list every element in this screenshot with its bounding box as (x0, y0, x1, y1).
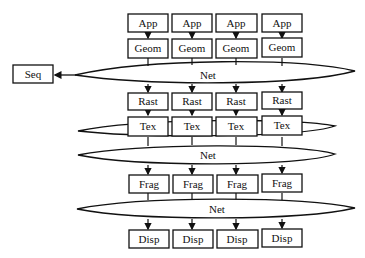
node-rast-2: Rast (172, 93, 212, 110)
svg-text:Frag: Frag (227, 178, 248, 190)
node-disp-1: Disp (129, 230, 169, 248)
svg-text:Disp: Disp (227, 233, 248, 245)
node-disp-2: Disp (173, 230, 213, 248)
stage-row-geom: Geom Geom Geom Geom (128, 38, 302, 58)
svg-text:Geom: Geom (223, 42, 250, 54)
svg-text:Geom: Geom (269, 41, 296, 53)
node-tex-3: Tex (216, 117, 257, 136)
svg-text:Tex: Tex (228, 120, 245, 132)
node-geom-3: Geom (216, 39, 257, 58)
network-label-3: Net (200, 149, 216, 161)
node-frag-2: Frag (173, 175, 213, 193)
svg-text:Frag: Frag (139, 178, 160, 190)
svg-text:Rast: Rast (272, 94, 292, 106)
svg-text:App: App (139, 17, 158, 29)
svg-text:App: App (227, 17, 246, 29)
svg-text:Frag: Frag (272, 177, 293, 189)
network-ring-3: Net (78, 146, 335, 164)
svg-text:Tex: Tex (274, 119, 291, 131)
node-frag-3: Frag (217, 175, 258, 193)
node-frag-4: Frag (262, 174, 302, 192)
node-tex-1: Tex (128, 117, 168, 136)
network-label-4: Net (209, 203, 225, 215)
stage-row-tex: Tex Tex Tex Tex (128, 116, 302, 136)
stage-row-frag: Frag Frag Frag Frag (129, 174, 302, 193)
svg-text:Rast: Rast (138, 95, 158, 107)
network-ring-4: Net (77, 199, 355, 218)
node-disp-3: Disp (217, 230, 258, 248)
node-app-2: App (172, 14, 212, 32)
svg-text:Disp: Disp (272, 232, 293, 244)
node-app-1: App (128, 14, 168, 32)
node-rast-1: Rast (128, 93, 168, 110)
node-geom-2: Geom (172, 39, 212, 58)
stage-row-app: App App App App (128, 14, 302, 32)
svg-text:Geom: Geom (179, 42, 206, 54)
svg-text:Geom: Geom (135, 42, 162, 54)
node-disp-4: Disp (262, 229, 302, 247)
svg-text:Rast: Rast (226, 95, 246, 107)
node-geom-4: Geom (262, 38, 302, 57)
node-tex-2: Tex (172, 117, 212, 136)
svg-text:Rast: Rast (182, 95, 202, 107)
node-frag-1: Frag (129, 175, 169, 193)
svg-text:App: App (273, 17, 292, 29)
node-app-3: App (216, 14, 257, 32)
svg-text:Tex: Tex (184, 120, 201, 132)
node-rast-4: Rast (262, 92, 302, 109)
svg-text:Disp: Disp (139, 233, 160, 245)
svg-text:App: App (183, 17, 202, 29)
sequencer-node: Seq (13, 65, 53, 83)
node-app-4: App (262, 14, 302, 32)
svg-text:Disp: Disp (183, 233, 204, 245)
svg-text:Frag: Frag (183, 178, 204, 190)
sequencer-label: Seq (25, 68, 42, 80)
stage-row-rast: Rast Rast Rast Rast (128, 92, 302, 110)
node-tex-4: Tex (262, 116, 302, 135)
pipeline-diagram: Net Seq Net Net (0, 0, 365, 258)
svg-text:Tex: Tex (140, 120, 157, 132)
node-geom-1: Geom (128, 39, 168, 58)
network-ring-1: Net (75, 62, 355, 83)
network-label-1: Net (200, 69, 216, 81)
node-rast-3: Rast (216, 93, 257, 110)
stage-row-disp: Disp Disp Disp Disp (129, 229, 302, 248)
